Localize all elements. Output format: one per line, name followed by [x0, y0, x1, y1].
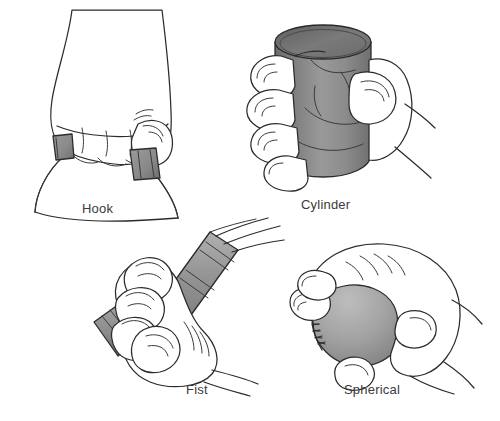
panel-spherical: Spherical — [288, 240, 478, 390]
spherical-illustration — [288, 240, 478, 390]
grip-types-figure: Hook — [0, 0, 500, 421]
fist-illustration — [88, 222, 298, 392]
grip-label-fist: Fist — [186, 383, 208, 396]
panel-fist: Fist — [88, 222, 298, 392]
panel-cylinder: Cylinder — [245, 12, 430, 197]
panel-hook: Hook — [10, 8, 210, 198]
cylinder-illustration — [245, 12, 430, 197]
grip-label-cylinder: Cylinder — [301, 198, 350, 211]
hook-illustration — [10, 8, 210, 198]
grip-label-hook: Hook — [82, 202, 113, 215]
grip-label-spherical: Spherical — [344, 383, 400, 396]
